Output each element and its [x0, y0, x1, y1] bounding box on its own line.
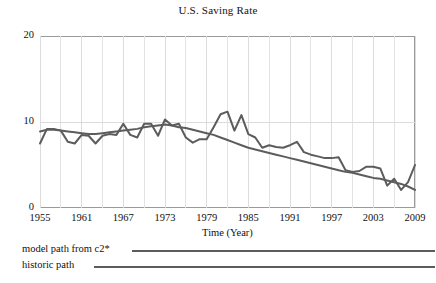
x-tick-label: 1979	[196, 212, 217, 223]
x-tick-label: 1961	[71, 212, 92, 223]
x-tick-label: 1967	[113, 212, 134, 223]
x-tick-label: 2009	[405, 212, 426, 223]
chart-figure: U.S. Saving Rate 01020 19551961196719731…	[0, 0, 436, 283]
legend-line-model	[132, 250, 435, 252]
x-tick-label: 2003	[363, 212, 384, 223]
legend-label-historic: historic path	[22, 259, 74, 270]
y-tick-label: 10	[0, 115, 34, 126]
legend-item-historic: historic path	[22, 259, 436, 275]
x-tick-label: 1991	[280, 212, 301, 223]
x-axis-title: Time (Year)	[40, 227, 415, 238]
series-layer	[40, 36, 415, 208]
chart-title: U.S. Saving Rate	[0, 4, 436, 16]
legend-line-historic	[94, 266, 435, 268]
legend-label-model: model path from c2*	[22, 243, 110, 254]
gridlines	[40, 36, 415, 208]
x-tick-label: 1955	[30, 212, 51, 223]
x-tick-label: 1985	[238, 212, 259, 223]
legend-item-model: model path from c2*	[22, 243, 436, 259]
y-tick-label: 20	[0, 29, 34, 40]
chart-legend: model path from c2* historic path	[22, 243, 436, 275]
y-tick-label: 0	[0, 201, 34, 212]
x-tick-label: 1997	[321, 212, 342, 223]
x-tick-label: 1973	[155, 212, 176, 223]
